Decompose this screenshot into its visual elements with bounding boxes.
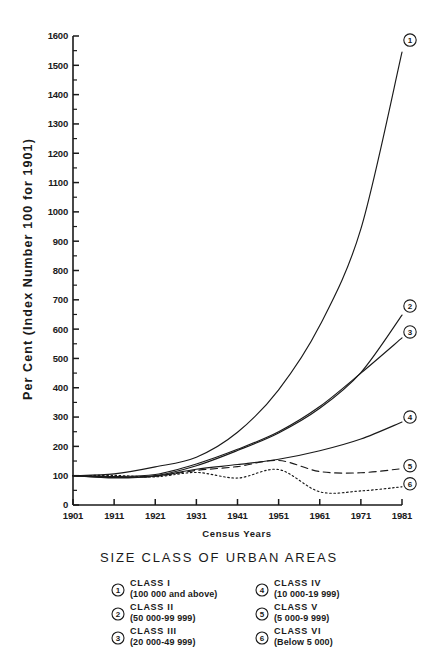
legend-class-label-6: CLASS VI — [274, 626, 321, 636]
x-tick-label: 1971 — [351, 510, 372, 521]
legend-class-label-5: CLASS V — [274, 602, 318, 612]
legend-item-3: 3CLASS III(20 000-49 999) — [112, 626, 196, 647]
legend-item-4: 4CLASS IV(10 000-19 999) — [256, 578, 340, 599]
y-tick-label: 600 — [53, 324, 68, 335]
x-tick-label: 1941 — [227, 510, 248, 521]
y-tick-label: 400 — [53, 382, 68, 393]
series-marker-2: 2 — [404, 300, 416, 312]
circled-number-label-1: 1 — [408, 36, 413, 45]
y-tick-label: 1100 — [48, 177, 68, 188]
circled-number-label-3: 3 — [408, 328, 413, 337]
x-axis-title: Census Years — [202, 528, 271, 539]
series-marker-1: 1 — [404, 34, 416, 46]
circled-number-label-5: 5 — [408, 462, 413, 471]
y-tick-label: 1000 — [48, 206, 68, 217]
series-line-1 — [73, 52, 402, 476]
circled-number-label-4: 4 — [408, 413, 413, 422]
legend-item-1: 1CLASS I(100 000 and above) — [112, 578, 217, 599]
legend-class-label-1: CLASS I — [130, 578, 170, 588]
legend-class-label-2: CLASS II — [130, 602, 174, 612]
series-marker-3: 3 — [404, 326, 416, 338]
x-tick-label: 1981 — [392, 510, 413, 521]
y-axis-ticks: 0100200300400500600700800900100011001200… — [48, 30, 79, 510]
legend-range-label-6: (Below 5 000) — [274, 637, 333, 647]
series-line-3 — [73, 338, 402, 477]
series-marker-6: 6 — [404, 478, 416, 490]
axes — [73, 36, 402, 505]
y-tick-label: 900 — [53, 236, 68, 247]
x-tick-label: 1911 — [104, 510, 125, 521]
legend-range-label-5: (5 000-9 999) — [274, 613, 329, 623]
legend-class-label-3: CLASS III — [130, 626, 177, 636]
x-tick-label: 1961 — [310, 510, 331, 521]
series-end-markers: 123456 — [404, 34, 416, 490]
x-tick-label: 1921 — [145, 510, 166, 521]
series-line-2 — [73, 315, 402, 477]
legend-entries: 1CLASS I(100 000 and above)2CLASS II(50 … — [112, 578, 340, 647]
y-tick-label: 800 — [53, 265, 68, 276]
x-tick-label: 1901 — [63, 510, 84, 521]
y-tick-label: 1400 — [48, 89, 68, 100]
legend-class-label-4: CLASS IV — [274, 578, 321, 588]
y-tick-label: 0 — [63, 499, 68, 510]
y-tick-label: 500 — [53, 353, 68, 364]
y-tick-label: 1500 — [48, 60, 68, 71]
series-line-5 — [73, 460, 402, 477]
series-marker-4: 4 — [404, 411, 416, 423]
chart-figure: Per Cent (Index Number 100 for 1901) 010… — [0, 0, 436, 654]
y-tick-label: 300 — [53, 411, 68, 422]
circled-number-label-6: 6 — [408, 480, 413, 489]
series-marker-5: 5 — [404, 459, 416, 471]
x-tick-label: 1951 — [268, 510, 289, 521]
legend-circled-number-label-4: 4 — [260, 586, 265, 595]
y-tick-label: 700 — [53, 294, 68, 305]
x-tick-label: 1931 — [186, 510, 207, 521]
legend-range-label-2: (50 000-99 999) — [130, 613, 196, 623]
legend-circled-number-label-6: 6 — [260, 634, 265, 643]
legend-circled-number-label-2: 2 — [116, 610, 121, 619]
y-tick-label: 200 — [53, 441, 68, 452]
legend: SIZE CLASS OF URBAN AREAS 1CLASS I(100 0… — [100, 550, 339, 647]
legend-range-label-1: (100 000 and above) — [130, 589, 217, 599]
y-axis-title: Per Cent (Index Number 100 for 1901) — [21, 138, 35, 400]
legend-title: SIZE CLASS OF URBAN AREAS — [100, 550, 338, 565]
circled-number-label-2: 2 — [408, 302, 413, 311]
y-tick-label: 1200 — [48, 148, 68, 159]
legend-circled-number-label-5: 5 — [260, 610, 265, 619]
legend-range-label-4: (10 000-19 999) — [274, 589, 340, 599]
legend-range-label-3: (20 000-49 999) — [130, 637, 196, 647]
legend-item-6: 6CLASS VI(Below 5 000) — [256, 626, 333, 647]
legend-circled-number-label-1: 1 — [116, 586, 121, 595]
y-tick-label: 1600 — [48, 30, 68, 41]
y-tick-label: 1300 — [48, 118, 68, 129]
y-axis-title-text: Per Cent (Index Number 100 for 1901) — [21, 138, 35, 400]
legend-item-2: 2CLASS II(50 000-99 999) — [112, 602, 196, 623]
legend-circled-number-label-3: 3 — [116, 634, 121, 643]
series-layer — [73, 52, 402, 493]
legend-item-5: 5CLASS V(5 000-9 999) — [256, 602, 329, 623]
chart-svg: Per Cent (Index Number 100 for 1901) 010… — [0, 0, 436, 654]
y-tick-label: 100 — [53, 470, 68, 481]
x-axis-ticks: 190119111921193119411951196119711981 — [63, 499, 413, 521]
